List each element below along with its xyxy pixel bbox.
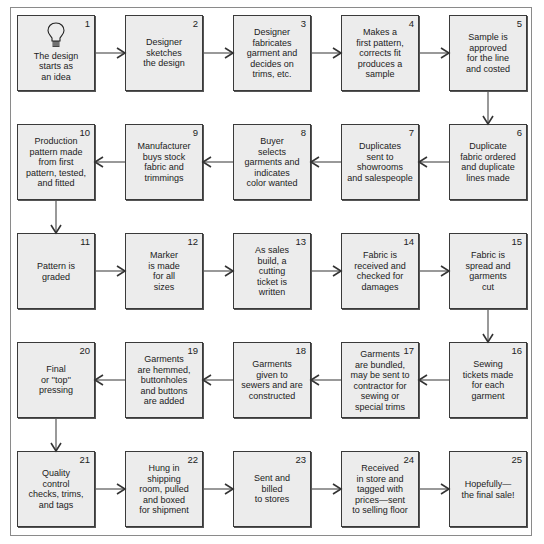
step-box-25: 25Hopefully— the final sale!	[449, 451, 527, 527]
step-text: Fabric is received and checked for damag…	[344, 250, 416, 292]
step-box-22: 22Hung in shipping room, pulled and boxe…	[125, 451, 203, 527]
lightbulb-icon	[47, 22, 65, 50]
step-box-9: 9Manufacturer buys stock fabric and trim…	[125, 124, 203, 200]
step-number: 1	[85, 18, 90, 29]
step-number: 25	[511, 454, 522, 465]
step-number: 7	[409, 127, 414, 138]
step-text: Marker is made for all sizes	[128, 250, 200, 292]
step-text: Garments are hemmed, buttonholes and but…	[128, 354, 200, 407]
step-box-7: 7Duplicates sent to showrooms and salesp…	[341, 124, 419, 200]
step-box-18: 18Garments given to sewers and are const…	[233, 342, 311, 418]
step-text: Quality control checks, trims, and tags	[20, 468, 92, 510]
step-text: Hopefully— the final sale!	[452, 479, 524, 500]
step-box-4: 4Makes a first pattern, corrects fit pro…	[341, 15, 419, 91]
step-text: Sent and billed to stores	[236, 473, 308, 505]
step-box-11: 11Pattern is graded	[17, 233, 95, 309]
step-box-1: 1The design starts as an idea	[17, 15, 95, 91]
step-text: Fabric is spread and garments cut	[452, 250, 524, 292]
step-number: 2	[193, 18, 198, 29]
step-text: Garments are bundled, may be sent to con…	[344, 349, 416, 412]
step-box-6: 6Duplicate fabric ordered and duplicate …	[449, 124, 527, 200]
step-text: Sample is approved for the line and cost…	[452, 32, 524, 74]
step-text: Production pattern made from first patte…	[20, 136, 92, 189]
step-box-8: 8Buyer selects garments and indicates co…	[233, 124, 311, 200]
step-box-16: 16Sewing tickets made for each garment	[449, 342, 527, 418]
step-box-23: 23Sent and billed to stores	[233, 451, 311, 527]
step-box-19: 19Garments are hemmed, buttonholes and b…	[125, 342, 203, 418]
step-text: Makes a first pattern, corrects fit prod…	[344, 27, 416, 80]
step-number: 21	[79, 454, 90, 465]
step-number: 5	[517, 18, 522, 29]
step-box-17: 17Garments are bundled, may be sent to c…	[341, 342, 419, 418]
step-text: Manufacturer buys stock fabric and trimm…	[128, 141, 200, 183]
step-text: Duplicate fabric ordered and duplicate l…	[452, 141, 524, 183]
step-text: Final or ''top'' pressing	[20, 364, 92, 396]
step-number: 11	[80, 236, 90, 247]
step-text: As sales build, a cutting ticket is writ…	[236, 245, 308, 298]
step-number: 6	[517, 127, 522, 138]
step-number: 20	[79, 345, 90, 356]
step-text: Received in store and tagged with prices…	[344, 463, 416, 516]
step-number: 12	[187, 236, 198, 247]
step-box-21: 21Quality control checks, trims, and tag…	[17, 451, 95, 527]
step-text: The design starts as an idea	[20, 51, 92, 83]
step-box-2: 2Designer sketches the design	[125, 15, 203, 91]
step-number: 16	[511, 345, 522, 356]
step-text: Sewing tickets made for each garment	[452, 359, 524, 401]
step-box-24: 24Received in store and tagged with pric…	[341, 451, 419, 527]
step-text: Buyer selects garments and indicates col…	[236, 136, 308, 189]
step-box-10: 10Production pattern made from first pat…	[17, 124, 95, 200]
step-text: Garments given to sewers and are constru…	[236, 359, 308, 401]
step-box-12: 12Marker is made for all sizes	[125, 233, 203, 309]
step-box-13: 13As sales build, a cutting ticket is wr…	[233, 233, 311, 309]
step-text: Duplicates sent to showrooms and salespe…	[344, 141, 416, 183]
step-number: 15	[511, 236, 522, 247]
step-box-20: 20Final or ''top'' pressing	[17, 342, 95, 418]
step-box-5: 5Sample is approved for the line and cos…	[449, 15, 527, 91]
step-box-14: 14Fabric is received and checked for dam…	[341, 233, 419, 309]
step-text: Designer fabricates garment and decides …	[236, 27, 308, 80]
step-number: 18	[295, 345, 306, 356]
step-number: 23	[295, 454, 306, 465]
step-text: Designer sketches the design	[128, 37, 200, 69]
step-box-15: 15Fabric is spread and garments cut	[449, 233, 527, 309]
step-number: 9	[193, 127, 198, 138]
step-box-3: 3Designer fabricates garment and decides…	[233, 15, 311, 91]
step-text: Hung in shipping room, pulled and boxed …	[128, 463, 200, 516]
step-text: Pattern is graded	[20, 261, 92, 282]
step-number: 14	[403, 236, 414, 247]
